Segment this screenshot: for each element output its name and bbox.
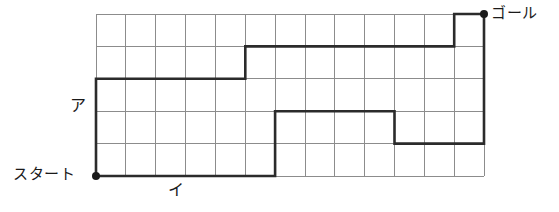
start-point-dot — [92, 172, 100, 180]
goal-label: ゴール — [491, 6, 538, 21]
segment-label-i: イ — [168, 182, 184, 198]
grid-lines — [96, 14, 484, 176]
path-lower-boundary — [96, 14, 484, 176]
segment-label-a: ア — [70, 98, 86, 114]
goal-point-dot — [480, 10, 488, 18]
path-outline — [96, 14, 484, 176]
path-upper-boundary — [96, 14, 484, 176]
start-label: スタート — [13, 167, 75, 182]
